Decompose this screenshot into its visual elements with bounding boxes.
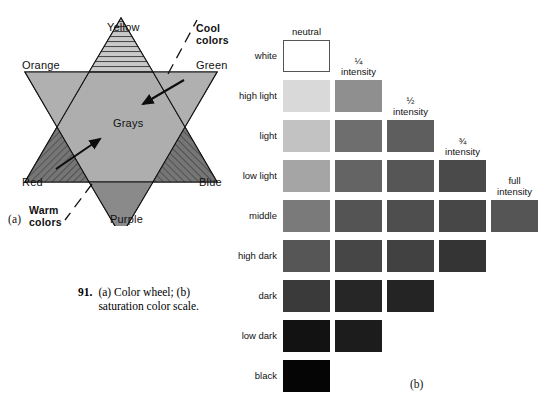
swatch-light-quarter-intensity	[335, 120, 382, 152]
row-label-low-light: low light	[225, 170, 277, 181]
row-label-dark: dark	[225, 290, 277, 301]
swatch-middle-full-intensity	[491, 200, 538, 232]
swatch-dark-neutral	[283, 280, 330, 312]
row-label-high-light: high light	[225, 90, 277, 101]
column-header-quarter-intensity: ¼intensity	[323, 55, 394, 77]
swatch-low-light-half-intensity	[387, 160, 434, 192]
swatch-middle-neutral	[283, 200, 330, 232]
swatch-dark-half-intensity	[387, 280, 434, 312]
vertex-label-blue: Blue	[199, 176, 222, 188]
column-header-line2: intensity	[445, 146, 480, 157]
swatch-low-dark-neutral	[283, 320, 330, 352]
swatch-low-light-three-quarter-intensity	[439, 160, 486, 192]
swatch-high-dark-half-intensity	[387, 240, 434, 272]
column-header-line1: neutral	[292, 26, 321, 37]
column-header-line2: intensity	[393, 106, 428, 117]
swatch-light-neutral	[283, 120, 330, 152]
figure-page: Yellow Orange Green Red Blue Purple Gray…	[0, 0, 551, 411]
column-header-line1: ½	[407, 95, 415, 106]
swatch-black-neutral	[283, 360, 330, 392]
column-header-line2: intensity	[497, 186, 532, 197]
swatch-low-light-neutral	[283, 160, 330, 192]
vertex-label-orange: Orange	[22, 59, 60, 71]
panel-label-a: (a)	[8, 213, 21, 225]
swatch-light-half-intensity	[387, 120, 434, 152]
row-label-middle: middle	[225, 210, 277, 221]
swatch-low-light-quarter-intensity	[335, 160, 382, 192]
column-header-half-intensity: ½intensity	[375, 95, 446, 117]
panel-label-b: (b)	[410, 378, 423, 390]
swatch-middle-half-intensity	[387, 200, 434, 232]
annotation-warm-colors: Warm colors	[29, 205, 62, 228]
column-header-full-intensity: fullintensity	[479, 175, 550, 197]
column-header-line1: ¾	[459, 135, 467, 146]
swatch-high-dark-quarter-intensity	[335, 240, 382, 272]
warm-colors-line2: colors	[29, 216, 62, 228]
column-header-line2: intensity	[341, 66, 376, 77]
cool-colors-line2: colors	[196, 34, 229, 46]
warm-colors-line1: Warm	[29, 204, 59, 216]
swatch-high-light-neutral	[283, 80, 330, 112]
swatch-white-neutral	[283, 40, 330, 72]
row-label-black: black	[225, 370, 277, 381]
swatch-middle-three-quarter-intensity	[439, 200, 486, 232]
figure-b-saturation-scale: whitehigh lightlightlow lightmiddlehigh …	[225, 0, 551, 411]
row-label-white: white	[225, 50, 277, 61]
column-header-line1: ¼	[355, 55, 363, 66]
swatch-high-light-quarter-intensity	[335, 80, 382, 112]
row-label-high-dark: high dark	[225, 250, 277, 261]
swatch-dark-quarter-intensity	[335, 280, 382, 312]
figure-a-color-wheel: Yellow Orange Green Red Blue Purple Gray…	[0, 0, 262, 300]
vertex-label-red: Red	[22, 176, 43, 188]
swatch-low-dark-quarter-intensity	[335, 320, 382, 352]
row-label-low-dark: low dark	[225, 330, 277, 341]
column-header-three-quarter-intensity: ¾intensity	[427, 135, 498, 157]
column-header-line1: full	[508, 175, 520, 186]
vertex-label-yellow: Yellow	[107, 21, 140, 33]
annotation-cool-colors: Cool colors	[196, 23, 229, 46]
center-label-grays: Grays	[113, 117, 143, 129]
caption-text: (a) Color wheel; (b) saturation color sc…	[98, 285, 226, 313]
row-label-light: light	[225, 130, 277, 141]
warm-colors-leader	[65, 184, 92, 220]
cool-colors-line1: Cool	[196, 22, 220, 34]
vertex-label-purple: Purple	[110, 213, 143, 225]
column-header-neutral: neutral	[271, 26, 342, 37]
caption-number: 91.	[78, 286, 92, 298]
swatch-high-dark-three-quarter-intensity	[439, 240, 486, 272]
cool-colors-leader	[168, 20, 197, 74]
vertex-label-green: Green	[196, 59, 228, 71]
swatch-high-dark-neutral	[283, 240, 330, 272]
swatch-middle-quarter-intensity	[335, 200, 382, 232]
